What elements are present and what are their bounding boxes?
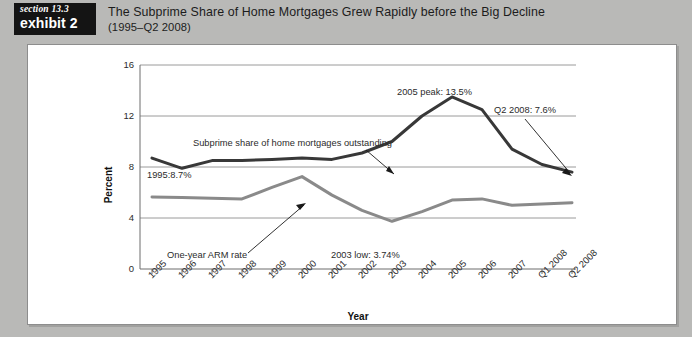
leader-one-year-arm [248,205,304,253]
annotation-one-year-arm: One-year ARM rate [167,250,247,260]
x-tick-q2-2008: Q2 2008 [566,247,600,281]
exhibit-header: section 13.3 exhibit 2 The Subprime Shar… [0,0,692,40]
title-line-2: (1995–Q2 2008) [108,20,683,34]
line-chart: 16 12 8 4 0 Percent [28,45,678,326]
y-tick-labels: 16 12 8 4 0 [123,59,134,274]
x-axis-title: Year [347,311,368,322]
exhibit-badge: section 13.3 exhibit 2 [14,3,96,35]
badge-exhibit-label: exhibit 2 [20,15,96,31]
annotation-2005-peak: 2005 peak: 13.5% [397,87,472,97]
series-line-one-year-arm-rate [152,177,572,222]
y-tick-0: 0 [129,263,134,274]
annotation-subprime-share: Subprime share of home mortgages outstan… [193,138,392,148]
chart-panel: 16 12 8 4 0 Percent [27,44,677,325]
y-tick-12: 12 [123,110,134,121]
y-axis-title: Percent [103,166,114,203]
x-tick-q1-2008: Q1 2008 [536,247,570,281]
badge-section-label: section 13.3 [20,4,96,15]
y-tick-8: 8 [129,161,134,172]
title-line-1: The Subprime Share of Home Mortgages Gre… [108,5,683,20]
y-tick-16: 16 [123,59,134,70]
exhibit-title: The Subprime Share of Home Mortgages Gre… [108,5,683,34]
annotation-1995-value: 1995:8.7% [147,170,191,180]
annotation-2003-low: 2003 low: 3.74% [331,250,400,260]
exhibit-figure: section 13.3 exhibit 2 The Subprime Shar… [0,0,692,337]
y-tick-4: 4 [129,212,134,223]
arrowhead-one-year-arm [296,203,306,210]
annotation-q2-2008-value: Q2 2008: 7.6% [494,105,556,115]
